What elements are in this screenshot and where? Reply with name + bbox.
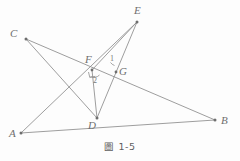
vertex-label-F: F — [85, 54, 92, 65]
segment-EF — [92, 22, 137, 70]
vertex-label-B: B — [221, 115, 228, 126]
segment-ED — [97, 22, 137, 118]
segment-AE — [21, 22, 137, 133]
vertex-dot-C — [25, 38, 28, 41]
angle-label-2: 2 — [93, 77, 97, 85]
vertex-label-D: D — [88, 120, 96, 131]
vertex-label-A: A — [9, 128, 16, 139]
segment-group — [21, 22, 215, 133]
geometry-figure: C E F G D A B 1 2 圖 1-5 — [0, 0, 240, 161]
segment-AB — [21, 120, 215, 133]
figure-canvas — [0, 0, 240, 161]
vertex-label-C: C — [10, 28, 17, 39]
segment-CD — [26, 39, 97, 118]
figure-caption: 圖 1-5 — [0, 139, 240, 153]
vertex-dot-F — [91, 69, 94, 72]
vertex-dot-B — [214, 119, 217, 122]
vertex-label-E: E — [134, 5, 141, 16]
vertex-label-G: G — [119, 66, 127, 77]
angle-label-1: 1 — [110, 55, 114, 63]
vertex-dot-G — [115, 71, 118, 74]
vertex-dot-A — [20, 132, 23, 135]
vertex-dot-E — [136, 21, 139, 24]
segment-CB — [26, 39, 215, 120]
vertex-dot-group — [20, 21, 217, 135]
